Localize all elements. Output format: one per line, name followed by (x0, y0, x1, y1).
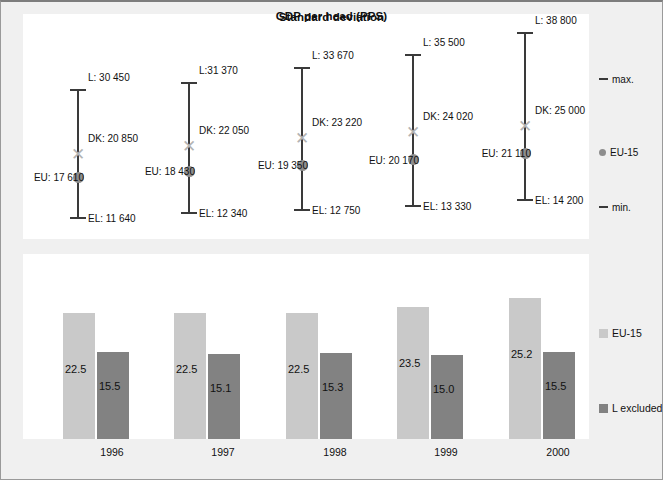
eu-value-label: EU: 19 350 (258, 160, 308, 171)
min-cap-icon (517, 199, 533, 201)
min-cap-icon (405, 205, 421, 207)
bar-l-excluded (543, 352, 575, 439)
legend-label-min: min. (612, 202, 631, 213)
dk-value-label: DK: 23 220 (312, 117, 362, 128)
range-chart-plot: ✕L: 30 450DK: 20 850EU: 17 610EL: 11 640… (1, 2, 663, 242)
bar-l-excluded (320, 353, 352, 439)
bar-value-eu15: 22.5 (288, 363, 309, 375)
range-group-1997: ✕L:31 370DK: 22 050EU: 18 430EL: 12 340 (159, 2, 279, 242)
range-group-1998: ✕L: 33 670DK: 23 220EU: 19 350EL: 12 750 (272, 2, 392, 242)
dk-value-label: DK: 20 850 (88, 133, 138, 144)
bar-eu15 (63, 313, 95, 439)
bar-group-1998: 22.515.31998 (264, 254, 374, 439)
bar-value-eu15: 22.5 (65, 363, 86, 375)
min-value-label: EL: 13 330 (423, 201, 471, 212)
min-cap-icon (294, 209, 310, 211)
bar-group-1996: 22.515.51996 (41, 254, 151, 439)
legend-item-min: min. (599, 202, 631, 213)
bar-l-excluded (97, 352, 129, 439)
bar-group-2000: 25.215.52000 (487, 254, 597, 439)
max-cap-icon (517, 32, 533, 34)
min-value-label: EL: 12 340 (199, 208, 247, 219)
bar-value-eu15: 25.2 (511, 348, 532, 360)
range-group-1999: ✕L: 35 500DK: 24 020EU: 20 170EL: 13 330 (383, 2, 503, 242)
max-cap-icon (70, 89, 86, 91)
legend-label-max: max. (612, 74, 634, 85)
bar-value-l-excluded: 15.3 (322, 381, 343, 393)
min-dash-icon (599, 206, 608, 208)
eu-value-label: EU: 20 170 (369, 155, 419, 166)
max-cap-icon (405, 54, 421, 56)
bar-value-l-excluded: 15.5 (545, 380, 566, 392)
legend-label-eu15: EU-15 (610, 147, 638, 158)
max-dash-icon (599, 78, 608, 80)
bar-category-label: 1996 (41, 446, 151, 458)
bar-eu15 (174, 313, 206, 439)
max-value-label: L: 30 450 (88, 72, 130, 83)
l-excluded-swatch-icon (599, 404, 608, 413)
eu-value-label: EU: 17 610 (34, 172, 84, 183)
min-value-label: EL: 12 750 (312, 205, 360, 216)
legend-item-eu15-bar: EU-15 (599, 327, 642, 339)
eu15-swatch-icon (599, 329, 608, 338)
range-chart-legend: max. EU-15 min. (599, 2, 663, 242)
bar-eu15 (509, 298, 541, 439)
legend-item-lexcluded: L excluded (599, 402, 662, 414)
eu-value-label: EU: 18 430 (145, 166, 195, 177)
dk-cross-icon: ✕ (294, 131, 310, 147)
figure-frame: GDP per head (PPS) ✕L: 30 450DK: 20 850E… (0, 0, 663, 480)
bar-value-eu15: 22.5 (176, 363, 197, 375)
bar-value-l-excluded: 15.5 (99, 380, 120, 392)
dk-cross-icon: ✕ (70, 147, 86, 163)
bar-l-excluded (431, 355, 463, 439)
dk-value-label: DK: 22 050 (199, 125, 249, 136)
bar-eu15 (397, 307, 429, 439)
legend-label-lexcluded: L excluded (612, 402, 662, 414)
bar-chart-plot: 22.515.5199622.515.1199722.515.3199823.5… (1, 254, 663, 480)
bar-chart-legend: EU-15 L excluded (599, 254, 663, 439)
legend-item-eu15: EU-15 (599, 147, 638, 158)
range-group-2000: ✕L: 38 800DK: 25 000EU: 21 110EL: 14 200 (495, 2, 615, 242)
min-cap-icon (181, 212, 197, 214)
dk-cross-icon: ✕ (405, 125, 421, 141)
dk-value-label: DK: 25 000 (535, 105, 585, 116)
bar-category-label: 2000 (487, 446, 597, 458)
legend-label-eu15-bar: EU-15 (612, 327, 642, 339)
bar-chart-title: Standard deviation (1, 11, 662, 23)
legend-item-max: max. (599, 74, 634, 85)
max-value-label: L: 33 670 (312, 50, 354, 61)
bar-category-label: 1999 (375, 446, 485, 458)
bar-value-l-excluded: 15.0 (433, 383, 454, 395)
max-value-label: L: 35 500 (423, 37, 465, 48)
bar-group-1999: 23.515.01999 (375, 254, 485, 439)
bar-category-label: 1998 (264, 446, 374, 458)
eu15-dot-icon (599, 149, 606, 156)
bar-eu15 (286, 313, 318, 439)
min-value-label: EL: 11 640 (88, 213, 136, 224)
max-value-label: L:31 370 (199, 65, 238, 76)
bar-value-eu15: 23.5 (399, 357, 420, 369)
bar-value-l-excluded: 15.1 (210, 382, 231, 394)
dk-value-label: DK: 24 020 (423, 111, 473, 122)
eu-value-label: EU: 21 110 (482, 148, 531, 159)
min-value-label: EL: 14 200 (535, 195, 583, 206)
bar-l-excluded (208, 354, 240, 439)
min-cap-icon (70, 217, 86, 219)
dk-cross-icon: ✕ (517, 119, 533, 135)
max-cap-icon (181, 82, 197, 84)
range-group-1996: ✕L: 30 450DK: 20 850EU: 17 610EL: 11 640 (48, 2, 168, 242)
bar-category-label: 1997 (152, 446, 262, 458)
max-cap-icon (294, 67, 310, 69)
dk-cross-icon: ✕ (181, 139, 197, 155)
bar-group-1997: 22.515.11997 (152, 254, 262, 439)
